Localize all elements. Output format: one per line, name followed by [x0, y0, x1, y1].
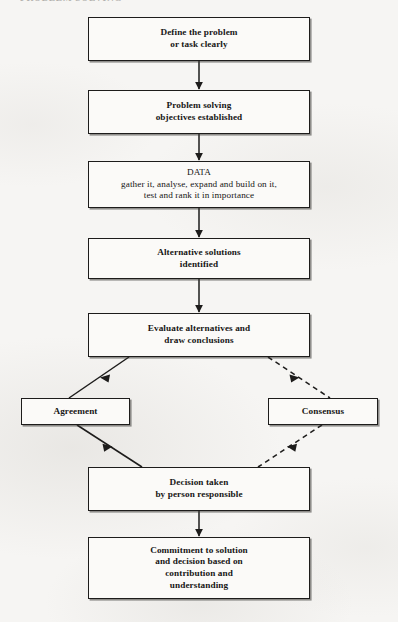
node-label: DATA gather it, analyse, expand and buil…	[117, 167, 281, 202]
node-evaluate-alternatives: Evaluate alternatives and draw conclusio…	[88, 313, 310, 357]
node-data: DATA gather it, analyse, expand and buil…	[88, 161, 310, 208]
node-consensus: Consensus	[268, 398, 378, 425]
connector-evaluate-to-consensus-arrowhead	[290, 375, 300, 383]
node-label: Commitment to solution and decision base…	[146, 545, 252, 591]
node-label: Evaluate alternatives and draw conclusio…	[144, 323, 255, 346]
node-label: Alternative solutions identified	[153, 247, 245, 270]
node-alternative-solutions: Alternative solutions identified	[88, 238, 310, 279]
node-commitment: Commitment to solution and decision base…	[88, 537, 310, 599]
node-label: Consensus	[298, 406, 348, 418]
node-label: Problem solving objectives established	[152, 100, 247, 123]
node-agreement: Agreement	[21, 398, 130, 425]
node-define-problem: Define the problem or task clearly	[88, 17, 310, 61]
node-objectives: Problem solving objectives established	[88, 90, 310, 134]
connector-evaluate-to-agreement	[69, 357, 129, 398]
node-label: Decision taken by person responsible	[151, 477, 246, 500]
node-label: Define the problem or task clearly	[156, 27, 241, 50]
node-label: Agreement	[49, 406, 101, 418]
node-decision-taken: Decision taken by person responsible	[88, 467, 310, 511]
